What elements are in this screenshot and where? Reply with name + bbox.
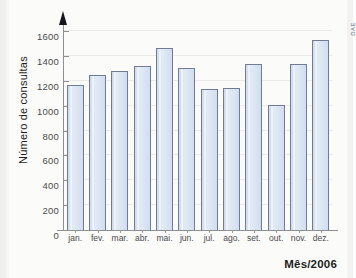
y-axis-tick-labels: 02004006008001000120014001600 bbox=[28, 31, 59, 230]
x-axis-title: Mês/2006 bbox=[284, 258, 337, 270]
y-axis-arrow-icon bbox=[59, 11, 67, 25]
plot-area bbox=[64, 31, 332, 230]
x-axis-tick bbox=[187, 230, 188, 233]
bar bbox=[290, 64, 307, 230]
x-axis-tick bbox=[120, 230, 121, 233]
credit-label: DAE bbox=[350, 22, 356, 36]
bar bbox=[156, 48, 173, 230]
gridline bbox=[64, 55, 332, 56]
x-axis-tick-label: jun. bbox=[180, 233, 194, 243]
x-axis-tick-label: mai. bbox=[156, 233, 172, 243]
bar bbox=[312, 40, 329, 230]
x-axis-tick bbox=[75, 230, 76, 233]
bar bbox=[223, 88, 240, 230]
x-axis-tick-label: set. bbox=[247, 233, 261, 243]
x-axis-tick bbox=[254, 230, 255, 233]
x-axis-tick-label: jul. bbox=[204, 233, 215, 243]
x-axis-tick-labels: jan.fev.mar.abr.mai.jun.jul.ago.set.out.… bbox=[64, 232, 332, 248]
x-axis-tick-label: abr. bbox=[135, 233, 149, 243]
x-axis-tick bbox=[299, 230, 300, 233]
page-edge-band-right bbox=[347, 0, 353, 278]
x-axis-tick-label: nov. bbox=[291, 233, 306, 243]
bar bbox=[134, 66, 151, 230]
x-axis-tick bbox=[276, 230, 277, 233]
bar bbox=[89, 75, 106, 230]
bar bbox=[201, 89, 218, 230]
bar bbox=[245, 64, 262, 230]
page-edge-band-left-inner bbox=[6, 0, 9, 278]
x-axis-tick bbox=[98, 230, 99, 233]
gridline bbox=[64, 30, 332, 31]
x-axis-tick-label: out. bbox=[269, 233, 283, 243]
x-axis-tick-label: ago. bbox=[223, 233, 240, 243]
x-axis-tick-label: mar. bbox=[112, 233, 129, 243]
bar bbox=[268, 105, 285, 230]
x-axis-tick bbox=[142, 230, 143, 233]
bar bbox=[178, 68, 195, 230]
bar bbox=[67, 85, 84, 230]
x-axis-tick bbox=[165, 230, 166, 233]
x-axis-tick-label: fev. bbox=[91, 233, 104, 243]
x-axis-tick bbox=[209, 230, 210, 233]
bar bbox=[111, 71, 128, 230]
x-axis-tick-label: jan. bbox=[68, 233, 82, 243]
x-axis-tick bbox=[321, 230, 322, 233]
x-axis-tick-label: dez. bbox=[313, 233, 329, 243]
x-axis-line bbox=[57, 230, 338, 231]
x-axis-tick bbox=[232, 230, 233, 233]
y-axis-line bbox=[63, 24, 64, 231]
